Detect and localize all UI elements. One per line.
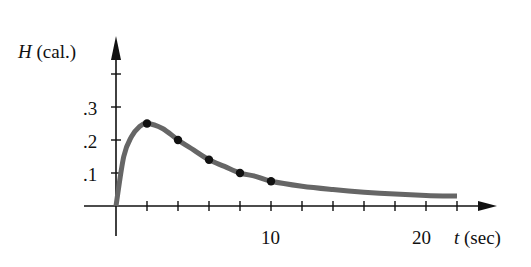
- data-point-marker: [174, 136, 182, 144]
- curve-layer: [116, 123, 457, 206]
- y-tick-label-3: .3: [83, 99, 97, 118]
- x-axis-arrow-icon: [478, 201, 497, 211]
- y-axis-arrow-icon: [111, 36, 121, 60]
- heat-curve: [116, 123, 457, 206]
- data-point-marker: [143, 119, 151, 127]
- x-tick-label-10: 10: [261, 228, 280, 247]
- y-axis-label: H (cal.): [18, 42, 76, 61]
- axes: [84, 36, 497, 236]
- y-axis-variable: H: [18, 41, 32, 62]
- x-axis-label: t (sec): [454, 228, 501, 247]
- data-point-marker: [267, 177, 275, 185]
- data-point-marker: [236, 169, 244, 177]
- y-tick-label-1: .1: [83, 165, 97, 184]
- y-tick-label-2: .2: [83, 132, 97, 151]
- x-tick-label-20: 20: [412, 228, 431, 247]
- x-axis-unit: (sec): [464, 227, 501, 248]
- x-axis-variable: t: [454, 227, 459, 248]
- data-point-marker: [205, 156, 213, 164]
- y-axis-unit: (cal.): [36, 41, 76, 62]
